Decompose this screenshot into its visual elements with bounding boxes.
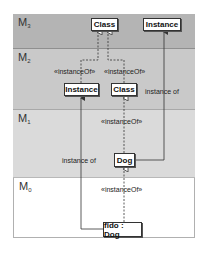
- m2-instance-node[interactable]: Instance: [64, 83, 99, 96]
- m1-instance-of-label: instance of: [62, 157, 96, 164]
- m3-class-node[interactable]: Class: [91, 18, 118, 31]
- m0-fido-node[interactable]: fido : Dog: [103, 222, 142, 237]
- connector-lines: [0, 0, 208, 255]
- m0-instanceof-label: «instanceOf»: [101, 186, 142, 193]
- m2-class-node[interactable]: Class: [111, 83, 137, 96]
- m1-instanceof-label: «instanceOf»: [101, 118, 142, 125]
- m2-instance-of-label: instance of: [145, 88, 179, 95]
- m2-instanceof-left-label: «instanceOf»: [54, 68, 95, 75]
- m2-instanceof-right-label: «instanceOf»: [104, 68, 145, 75]
- m1-dog-node[interactable]: Dog: [114, 153, 135, 167]
- m3-instance-node[interactable]: Instance: [143, 18, 181, 31]
